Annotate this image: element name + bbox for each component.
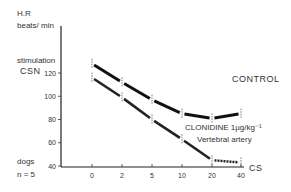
clonidine-line-segment xyxy=(214,160,238,162)
x-tick-label: 5 xyxy=(150,172,154,179)
chart-axes: 406080100120025102040 xyxy=(44,26,245,179)
line-chart: 406080100120025102040 xyxy=(0,0,291,192)
clonidine-line-segment xyxy=(94,79,120,96)
x-tick-label: 2 xyxy=(120,172,124,179)
control-line-segment xyxy=(154,101,179,113)
control-line-segment xyxy=(214,114,238,118)
x-tick-label: 40 xyxy=(237,172,245,179)
x-tick-label: 20 xyxy=(208,172,216,179)
y-tick-label: 40 xyxy=(48,163,56,170)
control-line-segment xyxy=(124,84,150,99)
x-tick-label: 0 xyxy=(90,172,94,179)
y-tick-label: 120 xyxy=(44,70,56,77)
y-tick-label: 100 xyxy=(44,93,56,100)
x-tick-label: 10 xyxy=(178,172,186,179)
control-line-segment xyxy=(184,114,209,118)
clonidine-line-segment xyxy=(124,99,150,118)
chart-series xyxy=(92,59,241,168)
clonidine-line-segment xyxy=(154,121,180,138)
y-tick-label: 80 xyxy=(48,116,56,123)
y-tick-label: 60 xyxy=(48,139,56,146)
clonidine-line-segment xyxy=(184,141,210,159)
control-line-segment xyxy=(94,65,120,81)
